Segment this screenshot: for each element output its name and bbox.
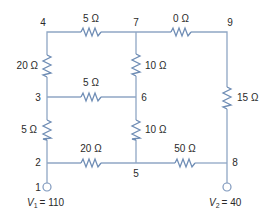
resistor-label-7-9: 0 Ω bbox=[173, 13, 189, 24]
node-label-1: 1 bbox=[35, 182, 41, 193]
resistor-7-9 bbox=[171, 28, 191, 36]
resistor-4-7 bbox=[81, 28, 101, 36]
resistor-label-4-3: 20 Ω bbox=[17, 60, 39, 71]
node-label-7: 7 bbox=[133, 17, 139, 28]
resistor-2-5 bbox=[81, 159, 101, 167]
node-label-9: 9 bbox=[227, 17, 233, 28]
node-label-6: 6 bbox=[141, 92, 147, 103]
resistor-label-2-5: 20 Ω bbox=[80, 143, 102, 154]
node-label-4: 4 bbox=[40, 17, 46, 28]
terminal-node-8 bbox=[223, 183, 231, 191]
node-label-8: 8 bbox=[232, 157, 238, 168]
source-label-v1: V1= 110 bbox=[27, 197, 65, 209]
resistor-4-3 bbox=[43, 55, 51, 77]
terminal-node-1 bbox=[43, 183, 51, 191]
resistor-5-8 bbox=[175, 159, 195, 167]
resistor-label-9-8: 15 Ω bbox=[237, 92, 259, 103]
resistor-label-6-5: 10 Ω bbox=[145, 124, 167, 135]
resistor-6-5 bbox=[132, 120, 140, 140]
resistor-7-6 bbox=[132, 54, 140, 76]
node-label-2: 2 bbox=[35, 157, 41, 168]
resistor-label-3-6: 5 Ω bbox=[83, 77, 99, 88]
resistor-3-2 bbox=[43, 120, 51, 140]
source-label-v2: V2= 40 bbox=[209, 197, 242, 209]
circuit-diagram: 5 Ω 0 Ω 20 Ω 10 Ω 5 Ω 15 Ω 5 Ω 10 Ω 20 Ω… bbox=[0, 0, 271, 224]
resistor-label-5-8: 50 Ω bbox=[174, 143, 196, 154]
resistor-3-6 bbox=[81, 93, 101, 101]
resistor-9-8 bbox=[223, 87, 231, 109]
node-label-5: 5 bbox=[133, 168, 139, 179]
resistor-label-7-6: 10 Ω bbox=[145, 60, 167, 71]
resistor-label-3-2: 5 Ω bbox=[21, 124, 37, 135]
resistor-label-4-7: 5 Ω bbox=[83, 13, 99, 24]
node-label-3: 3 bbox=[35, 92, 41, 103]
